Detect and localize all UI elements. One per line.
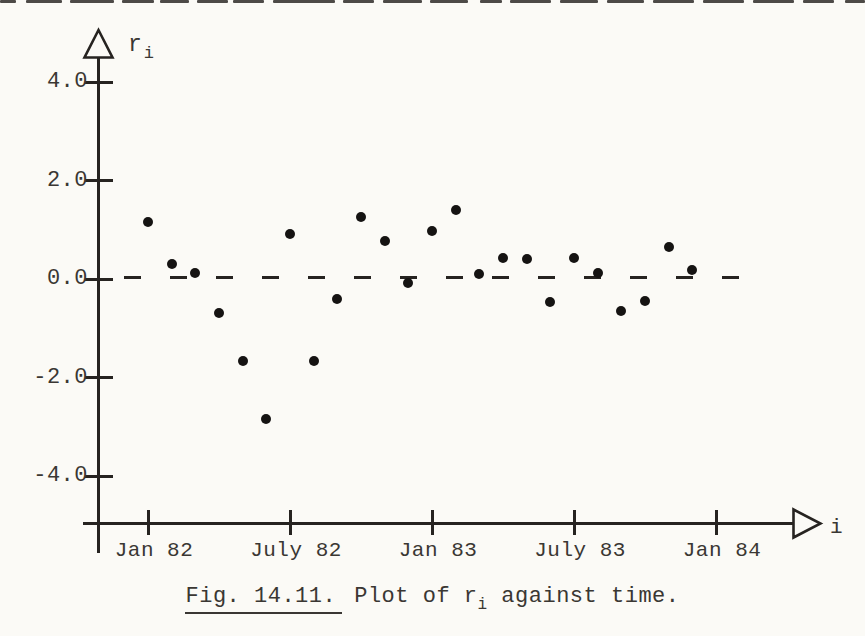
y-axis-arrow-icon (80, 27, 118, 61)
scan-artifact (70, 0, 114, 3)
scan-artifact (26, 0, 62, 3)
x-tick-mark (147, 510, 150, 535)
y-tick-mark (85, 475, 113, 478)
scan-artifact (480, 0, 502, 3)
y-axis-label-main: r (128, 32, 142, 58)
data-point (687, 265, 697, 275)
data-point (356, 212, 366, 222)
data-point (427, 226, 437, 236)
scan-artifact (122, 0, 154, 3)
x-axis-line (83, 522, 794, 525)
data-point (498, 253, 508, 263)
scan-artifact (653, 0, 694, 3)
data-point (640, 296, 650, 306)
x-axis-arrow-icon (790, 505, 826, 542)
figure-caption: Fig. 14.11.Plot of ri against time. (0, 584, 865, 611)
x-tick-label: July 82 (226, 539, 366, 563)
data-point (143, 217, 153, 227)
scan-artifact (607, 0, 644, 3)
caption-text: Plot of ri against time. (354, 584, 679, 609)
data-point (451, 205, 461, 215)
scan-artifact (343, 0, 374, 3)
y-tick-label: 0.0 (16, 266, 88, 292)
data-point (593, 268, 603, 278)
data-point (380, 236, 390, 246)
y-axis-label: ri (128, 32, 152, 60)
scan-artifact (383, 0, 422, 3)
scan-artifact (803, 0, 834, 3)
caption-figure-number: Fig. 14.11. (185, 584, 342, 614)
y-axis-line (97, 56, 100, 553)
data-point (309, 356, 319, 366)
x-tick-label: Jan 84 (652, 539, 792, 563)
scan-artifact (233, 0, 264, 3)
x-tick-mark (573, 510, 576, 535)
scan-artifact (845, 0, 865, 3)
scanned-figure-page: 4.02.00.0-2.0-4.0 Jan 82July 82Jan 83Jul… (0, 0, 865, 636)
y-tick-label: -4.0 (16, 463, 88, 489)
scan-artifact (510, 0, 551, 3)
data-point (214, 308, 224, 318)
data-point (285, 229, 295, 239)
x-tick-label: July 83 (510, 539, 650, 563)
data-point (664, 242, 674, 252)
x-axis-label: i (830, 516, 843, 540)
x-tick-label: Jan 83 (368, 539, 508, 563)
y-tick-mark (85, 179, 113, 182)
scan-artifact (197, 0, 228, 3)
scan-artifact (160, 0, 189, 3)
data-point (522, 254, 532, 264)
y-axis-label-subscript: i (144, 44, 154, 63)
x-tick-mark (431, 510, 434, 535)
scan-artifact (753, 0, 794, 3)
data-point (569, 253, 579, 263)
y-tick-mark (85, 278, 113, 281)
data-point (545, 297, 555, 307)
scan-artifact (273, 0, 335, 3)
scan-artifact (703, 0, 744, 3)
y-tick-label: 4.0 (16, 69, 88, 95)
y-tick-label: -2.0 (16, 365, 88, 391)
data-point (332, 294, 342, 304)
y-tick-mark (85, 376, 113, 379)
data-point (167, 259, 177, 269)
y-tick-mark (85, 81, 113, 84)
caption-text-pre: Plot of r (354, 584, 477, 609)
data-point (238, 356, 248, 366)
caption-text-tail: against time. (488, 584, 680, 609)
x-tick-label: Jan 82 (84, 539, 224, 563)
scan-artifact (560, 0, 598, 3)
scan-artifact (0, 0, 16, 3)
x-tick-mark (289, 510, 292, 535)
data-point (261, 414, 271, 424)
x-tick-mark (715, 510, 718, 535)
data-point (616, 306, 626, 316)
zero-dashed-line (124, 276, 755, 279)
y-tick-label: 2.0 (16, 168, 88, 194)
caption-subscript: i (478, 596, 488, 614)
data-point (403, 278, 413, 288)
scan-artifact (430, 0, 468, 3)
